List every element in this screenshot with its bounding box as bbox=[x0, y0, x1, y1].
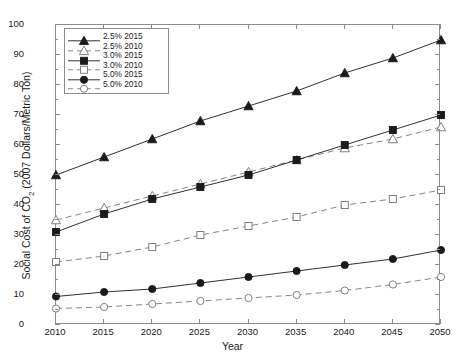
data-point-marker bbox=[292, 86, 301, 94]
data-point-marker bbox=[196, 116, 205, 124]
x-tick-label: 2050 bbox=[414, 327, 465, 337]
data-point-marker bbox=[245, 223, 252, 230]
y-tick-mark bbox=[435, 264, 440, 265]
series-line bbox=[56, 277, 441, 309]
y-tick-mark bbox=[55, 204, 60, 205]
y-minor-tick bbox=[437, 129, 440, 130]
y-tick-mark bbox=[435, 84, 440, 85]
y-tick-mark bbox=[435, 144, 440, 145]
y-minor-tick bbox=[437, 39, 440, 40]
x-tick-mark bbox=[103, 319, 104, 324]
y-axis-label: Social Cost of CO2 (2007 Dollars/Metric … bbox=[20, 56, 35, 296]
data-point-marker bbox=[149, 300, 156, 307]
y-minor-tick bbox=[437, 99, 440, 100]
data-point-marker bbox=[438, 187, 445, 194]
data-point-marker bbox=[341, 261, 348, 268]
y-minor-tick bbox=[55, 189, 58, 190]
x-tick-mark bbox=[199, 319, 200, 324]
x-tick-mark bbox=[344, 319, 345, 324]
data-point-marker bbox=[244, 101, 253, 109]
legend-symbol-open-square-icon bbox=[67, 61, 101, 71]
series-3 bbox=[53, 112, 445, 236]
x-tick-mark bbox=[199, 24, 200, 29]
y-axis-label-subscript: 2 bbox=[27, 192, 36, 196]
x-tick-mark bbox=[344, 24, 345, 29]
y-minor-tick bbox=[55, 279, 58, 280]
y-tick-mark bbox=[55, 234, 60, 235]
y-tick-mark bbox=[55, 324, 60, 325]
x-tick-label: 2020 bbox=[125, 327, 177, 337]
data-point-marker bbox=[438, 112, 445, 119]
legend-symbol-filled-triangle-icon bbox=[67, 32, 101, 42]
data-point-marker bbox=[80, 86, 87, 93]
y-minor-tick bbox=[437, 159, 440, 160]
y-tick-label: 0 bbox=[0, 319, 24, 329]
data-point-marker bbox=[293, 157, 300, 164]
figure: 0102030405060708090100201020152020202520… bbox=[0, 0, 465, 355]
y-minor-tick bbox=[437, 279, 440, 280]
legend-symbol-open-circle-icon bbox=[67, 80, 101, 90]
y-minor-tick bbox=[55, 249, 58, 250]
y-axis-label-tail: (2007 Dollars/Metric Ton) bbox=[20, 72, 32, 192]
x-tick-mark bbox=[248, 24, 249, 29]
y-tick-mark bbox=[55, 174, 60, 175]
data-point-marker bbox=[149, 285, 156, 292]
data-point-marker bbox=[341, 202, 348, 209]
data-point-marker bbox=[197, 184, 204, 191]
y-tick-mark bbox=[55, 84, 60, 85]
x-tick-mark bbox=[55, 319, 56, 324]
legend-label: 5.0% 2010 bbox=[101, 80, 143, 90]
y-tick-mark bbox=[435, 324, 440, 325]
y-tick-mark bbox=[55, 114, 60, 115]
data-point-marker bbox=[245, 273, 252, 280]
y-tick-mark bbox=[435, 174, 440, 175]
legend-symbol-filled-square-icon bbox=[67, 51, 101, 61]
data-point-marker bbox=[389, 281, 396, 288]
x-axis-label: Year bbox=[0, 340, 465, 352]
legend-item-6[interactable]: 5.0% 2010 bbox=[67, 80, 165, 90]
data-point-marker bbox=[437, 246, 444, 253]
data-point-marker bbox=[245, 172, 252, 179]
y-minor-tick bbox=[437, 189, 440, 190]
data-point-marker bbox=[293, 214, 300, 221]
y-minor-tick bbox=[55, 309, 58, 310]
x-tick-mark bbox=[296, 24, 297, 29]
x-tick-label: 2010 bbox=[29, 327, 81, 337]
x-tick-mark bbox=[392, 24, 393, 29]
data-point-marker bbox=[100, 152, 109, 160]
y-axis-label-main: Social Cost of CO bbox=[20, 196, 32, 279]
y-minor-tick bbox=[55, 39, 58, 40]
x-tick-mark bbox=[151, 319, 152, 324]
data-point-marker bbox=[101, 303, 108, 310]
x-tick-mark bbox=[55, 24, 56, 29]
y-tick-mark bbox=[55, 144, 60, 145]
y-minor-tick bbox=[55, 69, 58, 70]
data-point-marker bbox=[293, 267, 300, 274]
data-point-marker bbox=[389, 255, 396, 262]
y-minor-tick bbox=[55, 219, 58, 220]
y-minor-tick bbox=[55, 159, 58, 160]
series-4 bbox=[53, 187, 445, 266]
legend-symbol-open-triangle-icon bbox=[67, 42, 101, 52]
chart-legend: 2.5% 20152.5% 20103.0% 20153.0% 20105.0%… bbox=[64, 28, 169, 94]
x-tick-mark bbox=[392, 319, 393, 324]
y-tick-mark bbox=[55, 294, 60, 295]
data-point-marker bbox=[101, 211, 108, 218]
y-minor-tick bbox=[55, 129, 58, 130]
y-tick-mark bbox=[435, 204, 440, 205]
x-tick-label: 2035 bbox=[270, 327, 322, 337]
y-tick-mark bbox=[55, 264, 60, 265]
data-point-marker bbox=[389, 196, 396, 203]
data-point-marker bbox=[389, 127, 396, 134]
data-point-marker bbox=[197, 297, 204, 304]
data-point-marker bbox=[149, 196, 156, 203]
data-point-marker bbox=[388, 53, 397, 61]
y-tick-mark bbox=[435, 114, 440, 115]
data-point-marker bbox=[341, 287, 348, 294]
data-point-marker bbox=[340, 68, 349, 76]
data-point-marker bbox=[101, 288, 108, 295]
data-point-marker bbox=[197, 279, 204, 286]
data-point-marker bbox=[245, 294, 252, 301]
data-point-marker bbox=[149, 244, 156, 251]
data-point-marker bbox=[388, 134, 397, 142]
